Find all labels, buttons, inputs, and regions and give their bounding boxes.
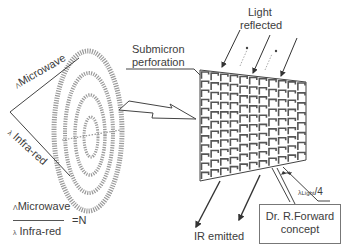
hollow-arrow-icon (119, 101, 196, 119)
label-ir-emitted: IR emitted (194, 230, 244, 242)
concept-line-1: Dr. R.Forward (260, 210, 340, 223)
ir-emitted-arrows (196, 175, 260, 227)
label-perforation: perforation (132, 56, 185, 68)
label-submicron: Submicron (132, 43, 185, 55)
formula-denominator: λ Infra-red (13, 225, 61, 239)
incoming-light-arrows (222, 30, 297, 76)
diagram-canvas: Light reflected Submicron perforation ΛM… (0, 0, 361, 250)
formula-numerator: ΛMicrowave (13, 200, 70, 214)
concept-callout-box: Dr. R.Forward concept (259, 204, 341, 244)
label-lambda-light-quarter: λLight/4 (298, 186, 323, 199)
concept-line-2: concept (260, 223, 340, 236)
label-reflected: reflected (240, 19, 282, 31)
perforated-grid (200, 70, 306, 181)
label-light: Light (248, 6, 272, 18)
formula-result: =N (72, 214, 86, 226)
formula-fraction-bar (13, 220, 64, 221)
concentric-rings-icon (54, 51, 122, 211)
